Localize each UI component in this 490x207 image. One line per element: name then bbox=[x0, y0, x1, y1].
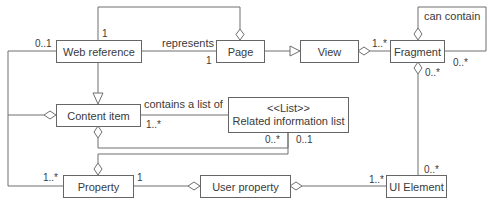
class-name: Property bbox=[78, 181, 120, 193]
mult-list-left: 0..* bbox=[265, 135, 280, 145]
class-web-reference[interactable]: Web reference bbox=[56, 40, 142, 63]
label-represents: represents bbox=[162, 38, 214, 49]
mult-webref-top: 1 bbox=[102, 29, 108, 39]
mult-fragment-bottom: 0..* bbox=[425, 68, 440, 78]
mult-property-left: 1..* bbox=[43, 173, 58, 183]
class-fragment[interactable]: Fragment bbox=[390, 40, 445, 63]
mult-list-right: 0..1 bbox=[296, 135, 313, 145]
aggregation-diamond-icon bbox=[414, 62, 422, 74]
generalization-arrow-icon bbox=[93, 93, 103, 104]
class-name: UI Element bbox=[389, 181, 443, 193]
class-user-property[interactable]: User property bbox=[200, 175, 291, 198]
mult-webref-left: 0..1 bbox=[35, 39, 52, 49]
class-name: Page bbox=[228, 46, 254, 58]
mult-property-right: 1 bbox=[137, 173, 143, 183]
aggregation-diamond-icon bbox=[44, 111, 56, 119]
aggregation-diamond-icon bbox=[358, 47, 370, 55]
mult-page-represents: 1 bbox=[206, 56, 212, 66]
generalization-arrow-icon bbox=[290, 46, 300, 56]
label-can-contain: can contain bbox=[424, 11, 480, 22]
page-webref-aggregation-line bbox=[98, 7, 240, 40]
class-page[interactable]: Page bbox=[216, 40, 265, 63]
mult-view-fragment: 1..* bbox=[372, 39, 387, 49]
mult-uielement-left: 1..* bbox=[369, 175, 384, 185]
class-stereotype: <<List>> bbox=[267, 102, 310, 115]
class-name: User property bbox=[212, 181, 279, 193]
class-name: Fragment bbox=[394, 46, 441, 58]
class-name: View bbox=[318, 46, 342, 58]
aggregation-diamond-icon bbox=[236, 29, 244, 40]
label-contains-a-list-of: contains a list of bbox=[144, 99, 223, 110]
aggregation-diamond-icon bbox=[188, 182, 200, 190]
aggregation-diamond-icon bbox=[94, 163, 102, 175]
mult-uielement-top: 0..* bbox=[424, 165, 439, 175]
class-name: Web reference bbox=[63, 46, 135, 58]
aggregation-diamond-icon bbox=[290, 182, 302, 190]
class-ui-element[interactable]: UI Element bbox=[386, 175, 447, 198]
mult-content-list: 1..* bbox=[146, 120, 161, 130]
class-name: Content item bbox=[67, 110, 129, 122]
mult-fragment-self: 0..* bbox=[453, 58, 468, 68]
class-property[interactable]: Property bbox=[63, 175, 134, 198]
aggregation-diamond-icon bbox=[94, 126, 102, 138]
class-view[interactable]: View bbox=[300, 40, 359, 63]
class-name: Related information list bbox=[233, 115, 345, 128]
aggregation-diamond-icon bbox=[414, 28, 422, 40]
class-related-information-list[interactable]: <<List>> Related information list bbox=[228, 97, 349, 133]
class-content-item[interactable]: Content item bbox=[56, 104, 141, 127]
